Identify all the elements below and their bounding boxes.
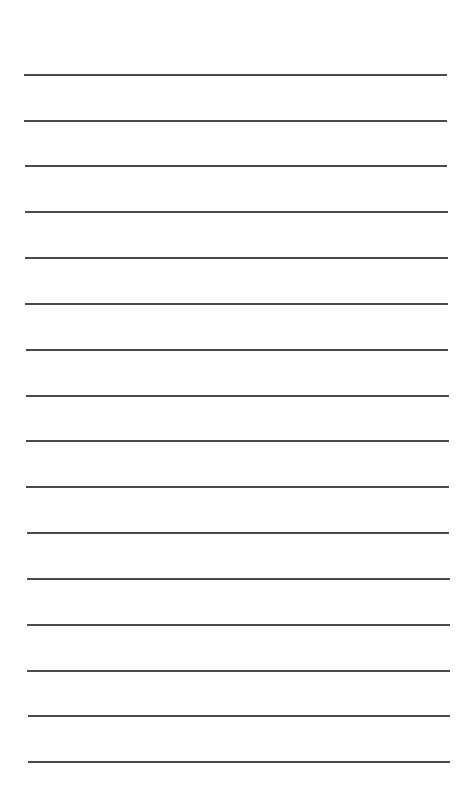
ruled-line — [24, 74, 447, 76]
ruled-line — [27, 532, 449, 534]
ruled-line — [25, 211, 448, 213]
ruled-line — [26, 395, 449, 397]
ruled-line — [24, 120, 447, 122]
ruled-line — [26, 349, 448, 351]
ruled-line — [25, 303, 448, 305]
ruled-line — [25, 257, 448, 259]
ruled-line — [28, 715, 450, 717]
ruled-line — [26, 486, 449, 488]
ruled-line — [27, 578, 450, 580]
ruled-line — [26, 440, 449, 442]
ruled-line — [25, 165, 447, 167]
ruled-line — [28, 761, 450, 763]
lined-paper-page — [0, 0, 468, 807]
ruled-line — [27, 624, 450, 626]
ruled-line — [27, 670, 450, 672]
